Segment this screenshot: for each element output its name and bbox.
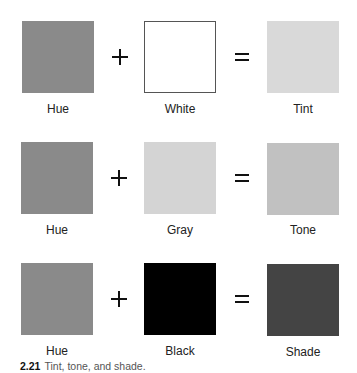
tone-swatch <box>267 143 339 215</box>
tint-label: Tint <box>253 102 353 116</box>
equals-icon <box>235 295 249 303</box>
equals-icon <box>235 53 249 61</box>
figure-caption: 2.21Tint, tone, and shade. <box>20 360 146 373</box>
hue-label: Hue <box>8 102 108 116</box>
plus-icon <box>111 170 127 186</box>
black-swatch <box>144 263 216 335</box>
hue-label: Hue <box>7 223 107 237</box>
plus-icon <box>112 49 128 65</box>
equals-icon <box>235 174 249 182</box>
hue-label: Hue <box>7 344 107 358</box>
tone-label: Tone <box>253 223 353 237</box>
hue-swatch <box>22 21 94 93</box>
gray-swatch <box>144 142 216 214</box>
black-label: Black <box>130 344 230 358</box>
tint-swatch <box>267 21 339 93</box>
caption-text: Tint, tone, and shade. <box>44 360 145 372</box>
shade-label: Shade <box>253 345 353 359</box>
figure-number: 2.21 <box>20 360 40 372</box>
plus-icon <box>111 291 127 307</box>
white-label: White <box>130 102 230 116</box>
shade-swatch <box>267 264 339 336</box>
white-swatch <box>144 21 216 93</box>
gray-label: Gray <box>130 223 230 237</box>
hue-swatch <box>21 142 93 214</box>
hue-swatch <box>21 263 93 335</box>
